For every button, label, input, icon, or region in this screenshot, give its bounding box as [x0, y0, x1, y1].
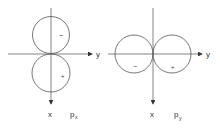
px-x-axis-label: x: [48, 110, 52, 119]
orbital-diagrams: − + y x p x − + y x p y: [0, 0, 220, 129]
py-y-axis-label: y: [206, 50, 210, 59]
px-diagram: − + y x p x: [8, 8, 100, 120]
px-top-sign: −: [59, 32, 63, 39]
py-orbital-subscript: y: [179, 115, 182, 121]
py-left-sign: −: [133, 63, 137, 70]
py-right-sign: +: [171, 64, 175, 70]
py-x-axis-label: x: [150, 110, 154, 119]
px-bottom-sign: +: [61, 73, 65, 79]
px-y-axis-label: y: [96, 50, 100, 59]
py-diagram: − + y x p y: [108, 8, 210, 121]
px-orbital-subscript: x: [75, 114, 78, 120]
